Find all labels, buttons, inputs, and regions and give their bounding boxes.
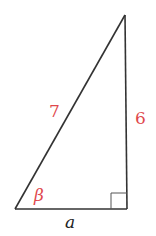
angle-beta-label: β [33,185,44,205]
right-angle-marker [111,193,127,209]
triangle [15,15,127,209]
triangle-diagram: 7 6 β a [0,0,156,236]
base-label: a [65,212,75,232]
hypotenuse-line [15,15,125,209]
vertical-leg-line [125,15,127,209]
vertical-leg-label: 6 [135,108,146,128]
hypotenuse-label: 7 [49,101,60,121]
